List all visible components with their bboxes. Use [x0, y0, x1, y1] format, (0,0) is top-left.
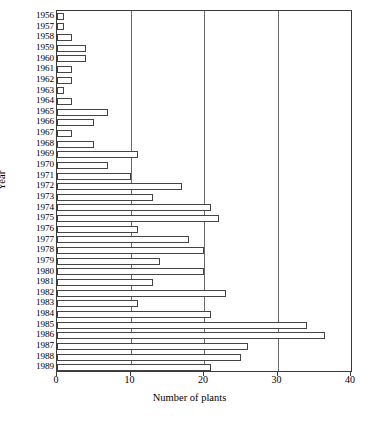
bar-1964	[57, 98, 72, 105]
bar-1989	[57, 364, 211, 371]
y-tick-label-1956: 1956	[2, 10, 54, 21]
bar-1957	[57, 23, 64, 30]
y-tick-label-1975: 1975	[2, 212, 54, 223]
bar-1960	[57, 55, 86, 62]
y-tick-label-1968: 1968	[2, 138, 54, 149]
plot-area	[56, 10, 352, 372]
y-tick-label-1986: 1986	[2, 329, 54, 340]
chart-figure: Year 19561957195819591960196119621963196…	[0, 0, 379, 421]
y-tick-label-1976: 1976	[2, 223, 54, 234]
y-tick-label-1972: 1972	[2, 180, 54, 191]
y-tick-label-1980: 1980	[2, 266, 54, 277]
y-tick-label-1981: 1981	[2, 276, 54, 287]
bar-series	[57, 11, 351, 371]
y-tick-label-1966: 1966	[2, 116, 54, 127]
y-tick-label-1959: 1959	[2, 42, 54, 53]
bar-row	[57, 11, 351, 22]
bar-row	[57, 43, 351, 54]
bar-row	[57, 203, 351, 214]
bar-1985	[57, 322, 307, 329]
bar-row	[57, 171, 351, 182]
bar-row	[57, 181, 351, 192]
bar-1981	[57, 279, 153, 286]
bar-row	[57, 86, 351, 97]
bar-1967	[57, 130, 72, 137]
bar-1988	[57, 354, 241, 361]
bar-1973	[57, 194, 153, 201]
bar-1968	[57, 141, 94, 148]
bar-row	[57, 117, 351, 128]
y-tick-label-1965: 1965	[2, 106, 54, 117]
bar-row	[57, 64, 351, 75]
bar-row	[57, 362, 351, 373]
bar-1976	[57, 226, 138, 233]
bar-1969	[57, 151, 138, 158]
y-tick-label-1989: 1989	[2, 361, 54, 372]
bar-1958	[57, 34, 72, 41]
bar-1963	[57, 87, 64, 94]
y-tick-label-1958: 1958	[2, 31, 54, 42]
bar-row	[57, 22, 351, 33]
bar-row	[57, 267, 351, 278]
bar-row	[57, 149, 351, 160]
y-tick-label-1969: 1969	[2, 148, 54, 159]
bar-row	[57, 107, 351, 118]
y-axis-tick-labels: 1956195719581959196019611962196319641965…	[0, 10, 54, 372]
bar-row	[57, 75, 351, 86]
y-tick-label-1987: 1987	[2, 340, 54, 351]
x-tick-label-40: 40	[345, 374, 355, 385]
bar-1980	[57, 268, 204, 275]
bar-row	[57, 288, 351, 299]
bar-1986	[57, 332, 325, 339]
bar-row	[57, 213, 351, 224]
bar-row	[57, 128, 351, 139]
bar-row	[57, 256, 351, 267]
y-tick-label-1961: 1961	[2, 63, 54, 74]
y-tick-label-1979: 1979	[2, 255, 54, 266]
bar-1966	[57, 119, 94, 126]
bar-row	[57, 32, 351, 43]
bar-row	[57, 224, 351, 235]
bar-row	[57, 245, 351, 256]
y-tick-label-1985: 1985	[2, 319, 54, 330]
bar-row	[57, 298, 351, 309]
y-tick-label-1988: 1988	[2, 351, 54, 362]
bar-1975	[57, 215, 219, 222]
y-tick-label-1957: 1957	[2, 21, 54, 32]
bar-1977	[57, 236, 189, 243]
bar-1956	[57, 13, 64, 20]
bar-1959	[57, 45, 86, 52]
bar-row	[57, 192, 351, 203]
y-tick-label-1962: 1962	[2, 74, 54, 85]
y-tick-label-1983: 1983	[2, 297, 54, 308]
bar-1982	[57, 290, 226, 297]
bar-row	[57, 352, 351, 363]
bar-row	[57, 309, 351, 320]
bar-1987	[57, 343, 248, 350]
bar-1983	[57, 300, 138, 307]
bar-1965	[57, 109, 108, 116]
y-tick-label-1973: 1973	[2, 191, 54, 202]
bar-row	[57, 139, 351, 150]
bar-row	[57, 235, 351, 246]
bar-1970	[57, 162, 108, 169]
y-tick-label-1967: 1967	[2, 127, 54, 138]
x-tick-label-0: 0	[54, 374, 59, 385]
bar-1971	[57, 173, 131, 180]
y-tick-label-1970: 1970	[2, 159, 54, 170]
bar-1961	[57, 66, 72, 73]
x-axis-tick-labels: 010203040	[0, 374, 379, 388]
x-tick-label-30: 30	[272, 374, 282, 385]
bar-row	[57, 320, 351, 331]
bar-row	[57, 341, 351, 352]
y-tick-label-1963: 1963	[2, 85, 54, 96]
bar-row	[57, 54, 351, 65]
bar-row	[57, 330, 351, 341]
y-tick-label-1974: 1974	[2, 202, 54, 213]
x-tick-label-20: 20	[198, 374, 208, 385]
y-tick-label-1960: 1960	[2, 53, 54, 64]
bar-row	[57, 160, 351, 171]
y-tick-label-1977: 1977	[2, 234, 54, 245]
bar-1978	[57, 247, 204, 254]
bar-1984	[57, 311, 211, 318]
